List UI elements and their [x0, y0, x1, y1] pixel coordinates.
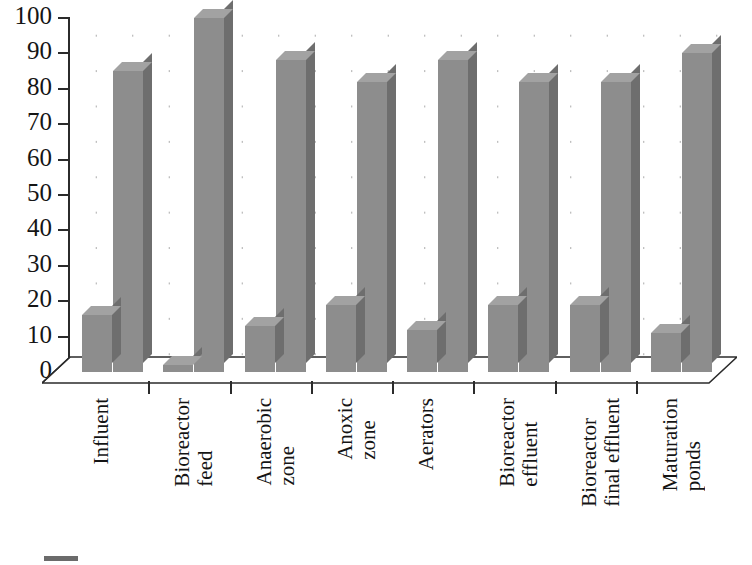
category-label: Bioreactorfinal effluent — [578, 398, 624, 507]
bar — [651, 333, 681, 372]
x-axis-tick — [392, 381, 394, 394]
bar-side-face — [549, 64, 558, 363]
y-axis-tick — [58, 52, 70, 54]
bar-side-face — [387, 64, 396, 363]
plot-area — [70, 18, 720, 372]
bar — [570, 305, 600, 372]
category-label-line: Maturation — [659, 398, 682, 491]
category-label-line: ponds — [682, 398, 705, 491]
bar-side-face — [631, 64, 640, 363]
bars-layer — [70, 18, 720, 372]
category-label: Influent — [90, 398, 113, 464]
category-label-line: feed — [194, 398, 217, 487]
category-label: Anoxiczone — [334, 398, 380, 460]
category-label-line: zone — [357, 398, 380, 460]
category-label: Bioreactorfeed — [171, 398, 217, 487]
bar-side-face — [224, 0, 233, 363]
bar — [326, 305, 356, 372]
y-axis-label: 100 — [0, 3, 52, 28]
y-axis-tick — [58, 123, 70, 125]
bar — [163, 365, 193, 372]
y-axis-label: 10 — [0, 322, 52, 347]
category-label-line: Anoxic — [334, 398, 357, 460]
y-axis-tick — [58, 265, 70, 267]
y-axis-tick — [58, 300, 70, 302]
y-axis-tick — [58, 88, 70, 90]
bar — [194, 18, 224, 372]
bar-side-face — [143, 53, 152, 363]
category-label: Bioreactoreffluent — [496, 398, 542, 487]
bar-chart: 0102030405060708090100 InfluentBioreacto… — [0, 0, 752, 565]
x-axis-tick — [555, 381, 557, 394]
y-axis-label: 60 — [0, 145, 52, 170]
bar — [488, 305, 518, 372]
y-axis-label: 20 — [0, 286, 52, 311]
y-axis-tick — [58, 229, 70, 231]
x-axis-tick — [473, 381, 475, 394]
bar — [407, 330, 437, 372]
y-axis-tick — [58, 17, 70, 19]
y-axis-label: 90 — [0, 38, 52, 63]
category-label: Anaerobiczone — [253, 398, 299, 485]
y-axis-label: 80 — [0, 74, 52, 99]
x-axis-tick — [148, 381, 150, 394]
legend-swatch — [44, 556, 78, 561]
y-axis-tick — [58, 159, 70, 161]
x-axis-tick — [636, 381, 638, 394]
category-label-line: Anaerobic — [253, 398, 276, 485]
y-axis-label: 40 — [0, 215, 52, 240]
category-label-line: zone — [276, 398, 299, 485]
category-label-line: Bioreactor — [578, 398, 601, 507]
category-label-line: Bioreactor — [496, 398, 519, 487]
y-axis-label: 70 — [0, 109, 52, 134]
y-axis-tick — [58, 336, 70, 338]
y-axis-tick — [58, 194, 70, 196]
bar-side-face — [306, 42, 315, 363]
category-label-line: Influent — [90, 398, 113, 464]
bar-side-face — [468, 42, 477, 363]
category-label-line: Aerators — [415, 398, 438, 470]
bar-side-face — [712, 35, 721, 363]
category-label: Maturationponds — [659, 398, 705, 491]
category-label-line: effluent — [519, 398, 542, 487]
category-label-line: final effluent — [601, 398, 624, 507]
x-axis-tick — [230, 381, 232, 394]
bar — [245, 326, 275, 372]
bar — [82, 315, 112, 372]
category-label-line: Bioreactor — [171, 398, 194, 487]
y-axis-label: 30 — [0, 251, 52, 276]
chart-legend — [44, 550, 88, 565]
bar-side-face — [437, 312, 446, 363]
y-axis-label: 50 — [0, 180, 52, 205]
x-axis-tick — [311, 381, 313, 394]
category-label: Aerators — [415, 398, 438, 470]
